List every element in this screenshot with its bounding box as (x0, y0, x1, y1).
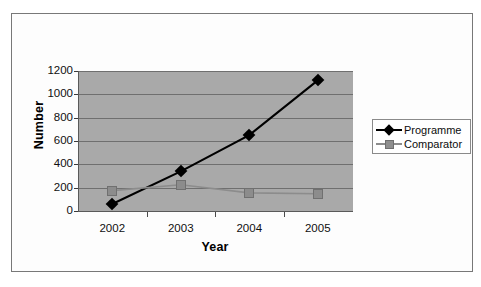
x-tick-mark (147, 212, 148, 217)
diamond-marker-icon (383, 124, 394, 135)
y-tick-mark (74, 71, 78, 72)
y-tick-mark (74, 118, 78, 119)
legend-label: Programme (404, 124, 461, 136)
gridline (79, 164, 353, 165)
legend-entry: Comparator (376, 137, 470, 151)
data-point (176, 180, 186, 190)
legend-entry: Programme (376, 123, 470, 137)
x-tick-label: 2004 (224, 222, 274, 234)
legend-swatch (376, 138, 402, 150)
plot-area (78, 71, 353, 212)
chart-legend: ProgrammeComparator (372, 119, 471, 154)
data-point (313, 189, 323, 199)
x-tick-label: 2005 (293, 222, 343, 234)
y-tick-mark (74, 164, 78, 165)
y-tick-label: 1200 (33, 65, 73, 76)
data-point (107, 186, 117, 196)
data-point (244, 188, 254, 198)
y-tick-mark (74, 188, 78, 189)
legend-swatch (376, 124, 402, 136)
x-tick-mark (284, 212, 285, 217)
y-tick-label: 200 (33, 182, 73, 193)
y-axis-title: Number (32, 80, 46, 170)
x-axis-title: Year (78, 240, 352, 254)
x-tick-label: 2003 (156, 222, 206, 234)
x-tick-mark (215, 212, 216, 217)
y-tick-label: 0 (33, 205, 73, 216)
square-marker-icon (385, 140, 394, 149)
line-chart: 020040060080010001200 2002200320042005 N… (0, 0, 481, 287)
gridline (79, 71, 353, 72)
gridline (79, 141, 353, 142)
y-tick-mark (74, 94, 78, 95)
gridline (79, 94, 353, 95)
y-tick-mark (74, 141, 78, 142)
figure-root: 020040060080010001200 2002200320042005 N… (0, 0, 481, 287)
x-tick-label: 2002 (87, 222, 137, 234)
legend-label: Comparator (404, 138, 462, 150)
y-tick-mark (74, 211, 78, 212)
gridline (79, 118, 353, 119)
